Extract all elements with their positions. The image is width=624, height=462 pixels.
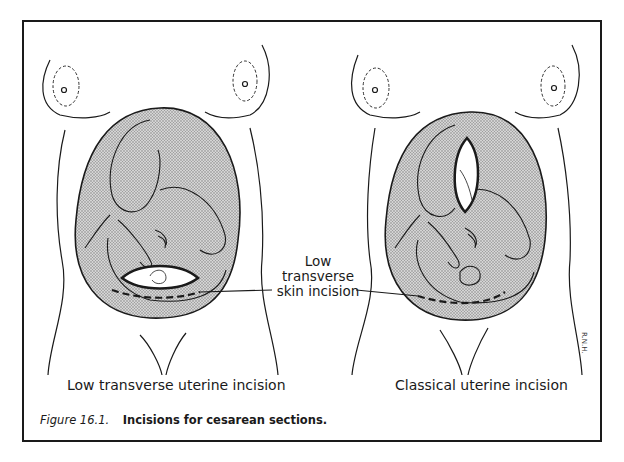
right-panel-subtitle: Classical uterine incision [395, 377, 568, 393]
artist-signature: R.N.H. [580, 332, 588, 354]
figure-number: Figure 16.1. [40, 413, 109, 427]
left-panel-subtitle: Low transverse uterine incision [67, 377, 286, 393]
figure-caption: Figure 16.1. Incisions for cesarean sect… [40, 413, 327, 427]
right-uterus [385, 112, 546, 320]
left-uterus [75, 108, 240, 318]
callout-line-2: transverse [268, 269, 368, 284]
figure-caption-text: Incisions for cesarean sections. [123, 413, 327, 427]
callout-line-3: skin incision [268, 284, 368, 299]
skin-incision-callout: Low transverse skin incision [268, 254, 368, 299]
callout-line-1: Low [268, 254, 368, 269]
